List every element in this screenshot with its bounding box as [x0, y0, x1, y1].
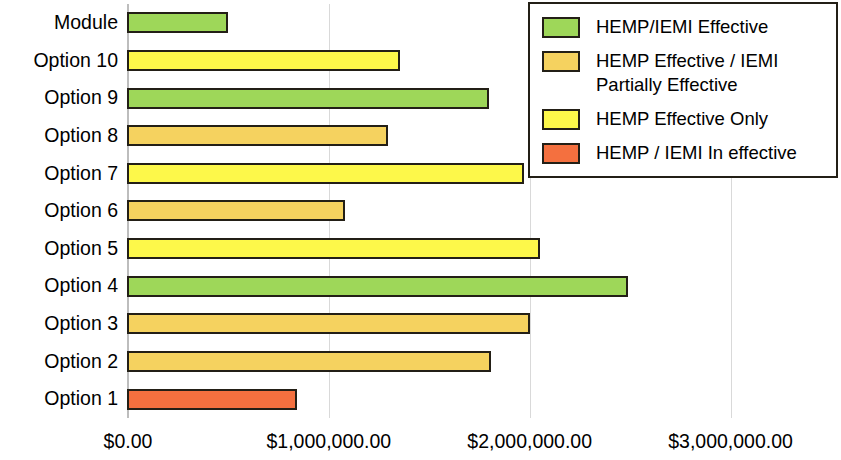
legend-swatch-icon: [542, 51, 580, 72]
y-axis-label: Option 10: [0, 42, 118, 80]
y-axis-label: Module: [0, 4, 118, 42]
bar[interactable]: [127, 12, 228, 33]
legend-item[interactable]: HEMP Effective / IEMI Partially Effectiv…: [542, 49, 826, 97]
y-axis-label: Option 8: [0, 117, 118, 155]
bar-row: [128, 343, 831, 381]
y-axis-label: Option 4: [0, 267, 118, 305]
y-axis-label: Option 1: [0, 380, 118, 418]
x-axis-tick-label: $2,000,000.00: [467, 426, 592, 456]
bar-row: [128, 267, 831, 305]
x-axis-tick-label: $3,000,000.00: [668, 426, 793, 456]
y-axis-label: Option 5: [0, 230, 118, 268]
bar-row: [128, 192, 831, 230]
legend-item[interactable]: HEMP/IEMI Effective: [542, 15, 826, 39]
bar-chart: ModuleOption 10Option 9Option 8Option 7O…: [0, 0, 841, 460]
y-axis-label: Option 9: [0, 79, 118, 117]
bar[interactable]: [127, 163, 524, 184]
bar[interactable]: [127, 125, 388, 146]
y-axis-label: Option 6: [0, 192, 118, 230]
bar-row: [128, 380, 831, 418]
legend-swatch-icon: [542, 109, 580, 130]
bar[interactable]: [127, 50, 400, 71]
legend-swatch-icon: [542, 17, 580, 38]
legend-label: HEMP / IEMI In effective: [596, 141, 797, 165]
legend-item[interactable]: HEMP Effective Only: [542, 107, 826, 131]
legend-swatch-icon: [542, 143, 580, 164]
x-axis-tick-label: $1,000,000.00: [266, 426, 391, 456]
legend-item[interactable]: HEMP / IEMI In effective: [542, 141, 826, 165]
x-axis-tick-label: $0.00: [104, 426, 153, 456]
legend-label: HEMP/IEMI Effective: [596, 15, 768, 39]
y-axis-label: Option 2: [0, 343, 118, 381]
bar[interactable]: [127, 200, 345, 221]
bar[interactable]: [127, 351, 491, 372]
y-axis-label: Option 7: [0, 155, 118, 193]
y-axis-label: Option 3: [0, 305, 118, 343]
legend-label: HEMP Effective Only: [596, 107, 768, 131]
x-axis-tick-labels: $0.00$1,000,000.00$2,000,000.00$3,000,00…: [0, 422, 841, 460]
legend-label: HEMP Effective / IEMI Partially Effectiv…: [596, 49, 778, 97]
bar-row: [128, 305, 831, 343]
bar[interactable]: [127, 238, 540, 259]
bar[interactable]: [127, 389, 297, 410]
bar-row: [128, 230, 831, 268]
bar[interactable]: [127, 276, 628, 297]
bar[interactable]: [127, 88, 489, 109]
y-axis-labels: ModuleOption 10Option 9Option 8Option 7O…: [0, 0, 118, 414]
bar[interactable]: [127, 313, 530, 334]
chart-legend: HEMP/IEMI EffectiveHEMP Effective / IEMI…: [528, 2, 838, 178]
